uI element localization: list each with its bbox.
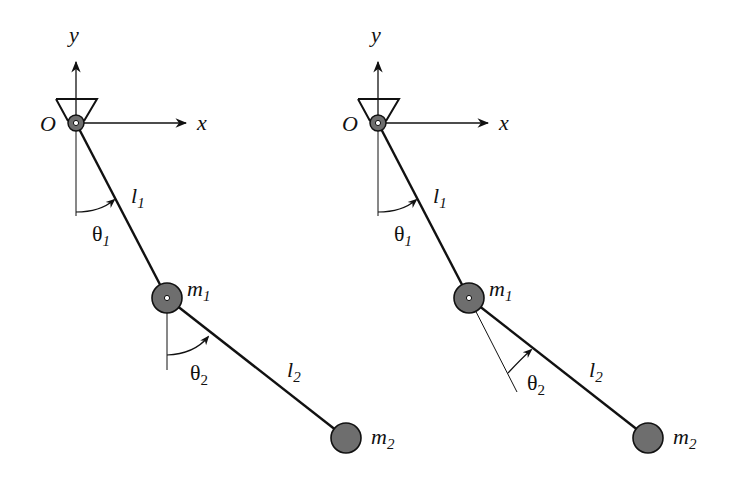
panel-absolute-angles: y x O l1 θ1 m1 θ2 l2 m2	[40, 22, 395, 453]
mass2-label: m2	[371, 424, 395, 452]
mass1-label: m1	[187, 276, 210, 304]
x-axis-label: x	[196, 110, 207, 135]
rod2-label: l2	[589, 357, 603, 385]
mass-2	[633, 423, 663, 453]
theta1-label: θ1	[394, 221, 412, 249]
theta2-label: θ2	[527, 370, 545, 398]
double-pendulum-diagram: y x O l1 θ1 m1 θ2 l2 m2 y x O l1 θ1 m1 θ…	[0, 0, 736, 484]
origin-label: O	[40, 111, 56, 136]
rod1-label: l1	[433, 183, 447, 211]
mass2-label: m2	[673, 424, 697, 452]
origin-label: O	[342, 111, 358, 136]
theta2-arc	[167, 337, 208, 355]
rod1-label: l1	[131, 183, 145, 211]
theta1-arc	[378, 200, 416, 212]
mass-2	[331, 423, 361, 453]
rod-2	[469, 298, 648, 438]
rod1-extension	[469, 298, 517, 392]
y-axis-label: y	[67, 22, 79, 47]
y-axis-label: y	[369, 22, 381, 47]
mass1-label: m1	[489, 276, 512, 304]
theta2-label: θ2	[190, 360, 208, 388]
rod2-label: l2	[287, 357, 301, 385]
panel-relative-angles: y x O l1 θ1 m1 θ2 l2 m2	[342, 22, 697, 453]
x-axis-label: x	[498, 110, 509, 135]
theta1-arc	[76, 200, 114, 212]
theta1-label: θ1	[92, 221, 110, 249]
